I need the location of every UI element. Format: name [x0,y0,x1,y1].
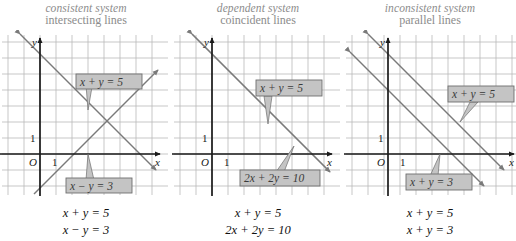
systems-of-equations-figure: consistent system intersecting lines [0,0,516,241]
origin-label: O [377,156,385,168]
caption-line-1: x + y = 5 [172,205,344,222]
y-unit-tick-label: 1 [30,132,36,144]
y-axis-label: y [379,36,385,48]
grid-lines [2,35,168,195]
svg-text:x − y = 3: x − y = 3 [69,180,113,193]
x-axis-label: x [508,156,514,168]
plot-area: y x O 1 1 x + y = 5 2x + 2y = 10 [172,30,344,198]
callout-x-plus-y-5: x + y = 5 [448,86,514,122]
caption-line-2: x − y = 3 [0,222,172,239]
y-unit-tick-label: 1 [378,132,384,144]
panel-title-line2: coincident lines [172,14,344,27]
x-axis-label: x [326,156,332,168]
panel-title: dependent system coincident lines [172,2,344,27]
panel-title: inconsistent system parallel lines [344,2,516,27]
callout-x-plus-y-5: x + y = 5 [76,74,142,110]
callout-x-minus-y-3: x − y = 3 [66,154,132,193]
panel-caption: x + y = 5 x − y = 3 [0,205,172,239]
caption-line-2: x + y = 3 [344,222,516,239]
plot-area: y x O 1 1 x + y = 5 x + y = 3 [344,30,516,198]
y-axis-label: y [31,36,37,48]
origin-label: O [29,156,37,168]
y-axis-label: y [203,36,209,48]
panel-title-line2: intersecting lines [0,14,172,27]
svg-text:x + y = 5: x + y = 5 [79,76,123,89]
panel-caption: x + y = 5 2x + 2y = 10 [172,205,344,239]
callout-x-plus-y-5: x + y = 5 [256,80,322,124]
panel-dependent-system: dependent system coincident lines [172,0,344,241]
graphed-lines [350,34,504,186]
panel-title: consistent system intersecting lines [0,2,172,27]
caption-line-2: 2x + 2y = 10 [172,222,344,239]
grid-lines [346,35,516,195]
svg-text:2x + 2y = 10: 2x + 2y = 10 [244,172,304,185]
caption-line-1: x + y = 5 [0,205,172,222]
panel-caption: x + y = 5 x + y = 3 [344,205,516,239]
panel-consistent-system: consistent system intersecting lines [0,0,172,241]
plot-area: y x O 1 1 x + y = 5 x − y = 3 [0,30,172,198]
x-unit-tick-label: 1 [52,156,58,168]
svg-text:x + y = 3: x + y = 3 [409,176,453,189]
svg-text:x + y = 5: x + y = 5 [451,88,495,101]
panel-title-line2: parallel lines [344,14,516,27]
x-axis-label: x [154,156,160,168]
origin-label: O [201,156,209,168]
x-unit-tick-label: 1 [224,156,230,168]
axes [344,38,514,196]
y-unit-tick-label: 1 [202,132,208,144]
svg-text:x + y = 5: x + y = 5 [259,82,303,95]
panel-inconsistent-system: inconsistent system parallel lines [344,0,516,241]
caption-line-1: x + y = 5 [344,205,516,222]
x-unit-tick-label: 1 [400,156,406,168]
